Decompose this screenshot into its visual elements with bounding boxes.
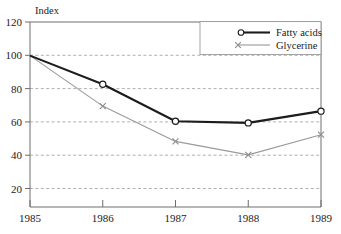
circle-marker-icon xyxy=(245,120,251,126)
y-axis-unit-label: Index xyxy=(35,5,60,16)
legend-label-glycerine: Glycerine xyxy=(276,40,318,51)
y-tick-label-40: 40 xyxy=(11,149,23,161)
circle-marker-icon xyxy=(100,81,106,87)
line-chart-figure: 120 100 80 60 40 20 1985 1986 1987 1988 … xyxy=(0,0,341,234)
y-tick-label-60: 60 xyxy=(11,116,23,128)
y-tick-label-100: 100 xyxy=(6,49,23,61)
chart-legend: Fatty acids Glycerine xyxy=(200,22,322,55)
y-tick-label-20: 20 xyxy=(11,183,23,195)
circle-marker-icon xyxy=(238,30,244,36)
x-tick-label-1986: 1986 xyxy=(92,212,115,224)
x-tick-label-1988: 1988 xyxy=(237,212,260,224)
chart-canvas: 120 100 80 60 40 20 1985 1986 1987 1988 … xyxy=(0,0,341,234)
circle-marker-icon xyxy=(318,108,324,114)
x-tick-label-1985: 1985 xyxy=(19,212,42,224)
y-tick-label-80: 80 xyxy=(11,83,23,95)
y-axis-tick-labels: 120 100 80 60 40 20 xyxy=(6,16,23,195)
y-axis-ticks xyxy=(25,22,30,189)
circle-marker-icon xyxy=(172,118,178,124)
x-axis-tick-labels: 1985 1986 1987 1988 1989 xyxy=(19,212,333,224)
legend-label-fatty-acids: Fatty acids xyxy=(276,27,322,38)
y-tick-label-120: 120 xyxy=(6,16,23,28)
x-tick-label-1987: 1987 xyxy=(165,212,188,224)
x-tick-label-1989: 1989 xyxy=(310,212,333,224)
